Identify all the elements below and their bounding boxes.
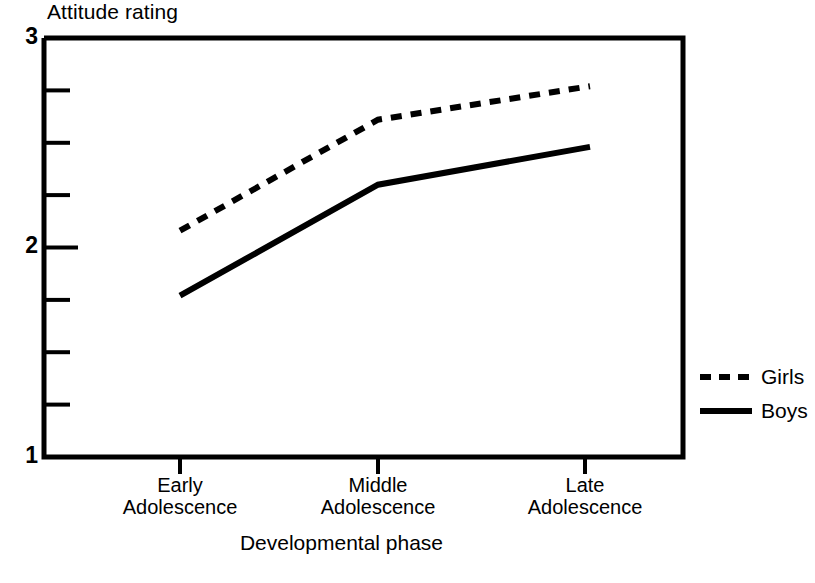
legend-label-boys: Boys bbox=[761, 399, 808, 423]
x-tick-label-early-line2: Adolescence bbox=[80, 496, 280, 518]
x-tick-label-middle: Middle Adolescence bbox=[278, 474, 478, 519]
x-ticks bbox=[180, 457, 585, 474]
legend-swatch-dashed-icon bbox=[700, 374, 752, 380]
x-tick-label-middle-line1: Middle bbox=[278, 474, 478, 496]
x-tick-label-late-line2: Adolescence bbox=[485, 496, 685, 518]
x-tick-label-late-line1: Late bbox=[485, 474, 685, 496]
x-tick-label-late: Late Adolescence bbox=[485, 474, 685, 519]
series-line-boys bbox=[180, 147, 590, 296]
chart-figure: Attitude rating 3 2 1 bbox=[0, 0, 815, 583]
legend-label-girls: Girls bbox=[761, 365, 804, 389]
x-tick-label-middle-line2: Adolescence bbox=[278, 496, 478, 518]
legend-item-boys: Boys bbox=[700, 394, 815, 428]
x-axis-title: Developmental phase bbox=[0, 531, 683, 555]
chart-legend: Girls Boys bbox=[700, 360, 815, 428]
x-tick-label-early: Early Adolescence bbox=[80, 474, 280, 519]
x-tick-label-early-line1: Early bbox=[80, 474, 280, 496]
legend-swatch-solid-icon bbox=[700, 408, 752, 414]
axis-frame bbox=[44, 38, 683, 457]
legend-item-girls: Girls bbox=[700, 360, 815, 394]
